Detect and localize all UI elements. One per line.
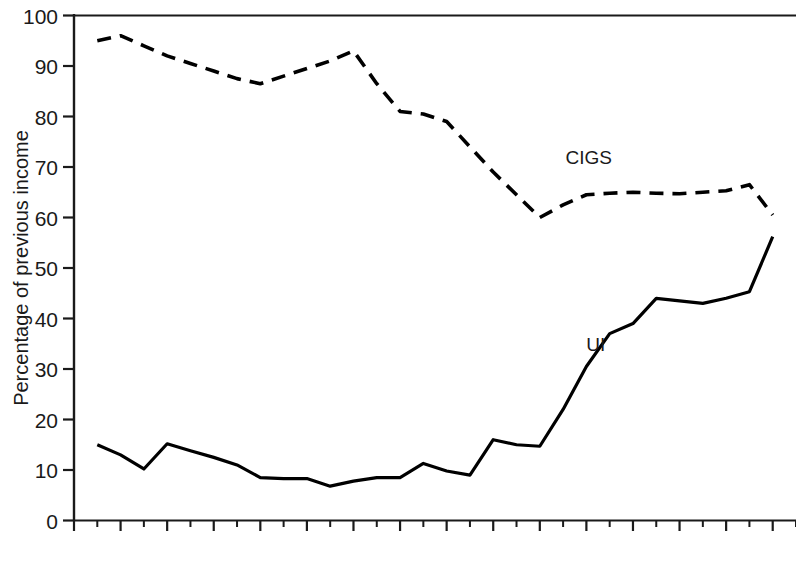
y-tick-label: 40 [35,308,58,331]
y-tick-label: 10 [35,459,58,482]
series-line-cigs [97,36,772,218]
y-tick-label: 90 [35,55,58,78]
series-line-ui [97,237,772,486]
plot-axes [73,14,796,521]
y-tick-label: 20 [35,409,58,432]
y-tick-label: 0 [46,510,58,533]
y-tick-label: 100 [23,5,58,28]
series-label-cigs: CIGS [565,147,611,168]
y-tick-label: 60 [35,207,58,230]
line-chart: 0102030405060708090100 19711973197519771… [0,0,796,579]
data-series-group [97,36,772,486]
y-tick-label: 50 [35,257,58,280]
y-tick-label: 30 [35,358,58,381]
y-tick-label: 80 [35,106,58,129]
y-axis-label: Percentage of previous income [10,130,32,406]
series-label-ui: UI [586,334,605,355]
y-tick-label: 70 [35,156,58,179]
x-axis-ticks: 1971197319751977197919811983198519871989… [64,521,796,579]
chart-figure: 0102030405060708090100 19711973197519771… [0,0,796,579]
series-annotations: CIGSUI [565,147,611,355]
